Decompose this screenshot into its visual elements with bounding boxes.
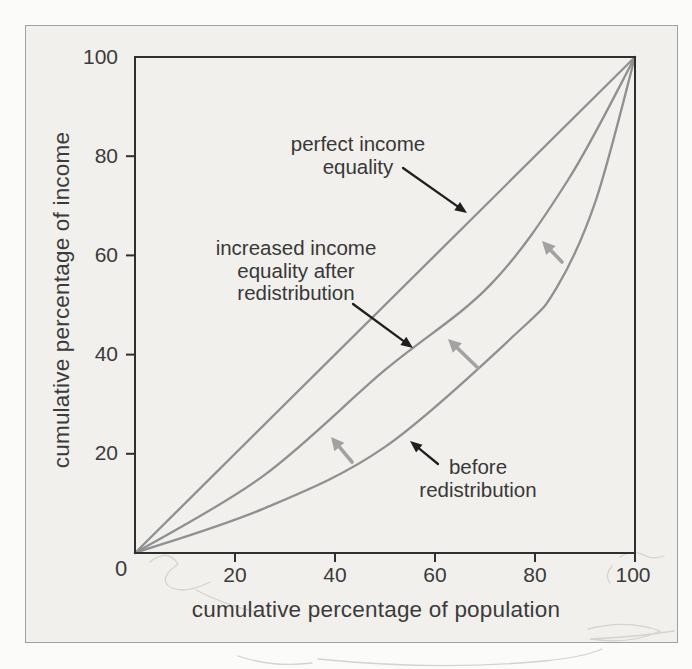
- pencil-scribble: [318, 649, 602, 666]
- annotation-line: equality: [258, 156, 458, 179]
- annotation-perfect-income-equality: perfect income equality: [258, 133, 458, 178]
- annotation-line: before: [393, 456, 563, 479]
- lorenz-curve-figure: 100 80 60 40 20 0 20 40 60 80 100 cumula…: [0, 0, 692, 669]
- pencil-scribble: [238, 656, 312, 664]
- x-axis-title: cumulative percentage of population: [126, 597, 626, 623]
- label-arrow-head: [454, 202, 467, 213]
- y-axis-title: cumulative percentage of income: [49, 85, 75, 515]
- annotation-line: perfect income: [258, 133, 458, 156]
- x-tick-label-40: 40: [300, 562, 370, 588]
- annotation-increased-equality: increased income equality after redistri…: [191, 237, 401, 305]
- label-arrow-shaft: [353, 304, 403, 341]
- x-tick-label-100: 100: [598, 562, 668, 588]
- x-tick-label-80: 80: [500, 562, 570, 588]
- gray-shift-arrow-shaft: [457, 348, 478, 368]
- annotation-line: redistribution: [191, 282, 401, 305]
- gray-shift-arrow-shaft: [339, 447, 352, 462]
- pencil-scribble: [588, 624, 674, 640]
- annotation-line: redistribution: [393, 479, 563, 502]
- x-tick-label-20: 20: [200, 562, 270, 588]
- label-arrow-head: [400, 337, 413, 348]
- annotation-before-redistribution: before redistribution: [393, 456, 563, 501]
- y-tick-label-100: 100: [38, 44, 118, 70]
- origin-label: 0: [106, 556, 136, 582]
- gray-shift-arrow-shaft: [551, 250, 562, 262]
- x-tick-label-60: 60: [400, 562, 470, 588]
- annotation-line: equality after: [191, 260, 401, 283]
- annotation-line: increased income: [191, 237, 401, 260]
